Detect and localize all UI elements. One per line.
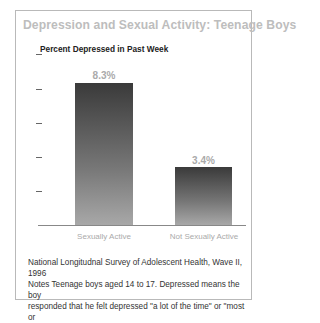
chart-title: Depression and Sexual Activity: Teenage …: [23, 17, 296, 32]
y-tick: [36, 191, 42, 192]
y-tick: [36, 157, 42, 158]
note-line: Notes Teenage boys aged 14 to 17. Depres…: [28, 279, 250, 301]
bar-value-label: 8.3%: [75, 70, 133, 81]
bar-sexually-active: [75, 83, 133, 225]
source-note: National Longitudnal Survey of Adolescen…: [28, 257, 250, 323]
bar-value-label: 3.4%: [175, 155, 232, 166]
y-axis-label: Percent Depressed in Past Week: [40, 44, 168, 54]
x-axis-baseline: [38, 225, 246, 226]
note-line: National Longitudnal Survey of Adolescen…: [28, 257, 250, 279]
category-label: Not Sexually Active: [165, 232, 243, 241]
note-line: responded that he felt depressed "a lot …: [28, 301, 250, 323]
category-label: Sexually Active: [65, 232, 143, 241]
bar-not-sexually-active: [175, 167, 232, 225]
y-tick: [36, 89, 42, 90]
y-tick: [36, 54, 42, 55]
y-tick: [36, 123, 42, 124]
